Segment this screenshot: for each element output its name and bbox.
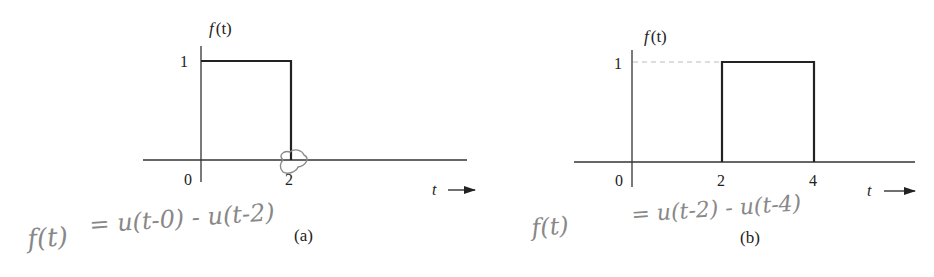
panel-a-handwritten-lhs: f(t) [24, 221, 68, 254]
panel-b-xtick-0: 0 [615, 172, 623, 189]
panel-b-pulse [722, 62, 814, 162]
panel-b-handwritten-eq: = u(t-2) - u(t-4) [631, 190, 802, 227]
panel-a: f(t) 1 0 2 t (a) f(t) = u(t-0) - u(t-2) [24, 19, 475, 254]
panel-a-xlabel: t [432, 181, 437, 198]
figure: f(t) 1 0 2 t (a) f(t) = u(t-0) - u(t-2) … [0, 0, 934, 277]
panel-a-handwritten-eq: = u(t-0) - u(t-2) [88, 198, 275, 239]
panel-b-xtick-2: 2 [717, 172, 725, 189]
panel-a-xtick-0: 0 [184, 171, 192, 188]
panel-b-handwritten-lhs: f(t) [528, 211, 569, 242]
panel-b-ytick-1: 1 [614, 55, 622, 72]
panel-a-handwritten-equation: f(t) = u(t-0) - u(t-2) [24, 198, 275, 254]
panel-a-caption: (a) [294, 226, 313, 245]
panel-b-xtick-4: 4 [809, 172, 817, 189]
panel-b: f(t) 1 0 2 4 t (b) f(t) = u(t-2) - u(t-4… [528, 27, 915, 247]
panel-b-xlabel: t [867, 182, 872, 199]
panel-b-caption: (b) [740, 228, 760, 247]
pencil-circle-mark [280, 150, 307, 173]
panel-b-ylabel: f(t) [644, 27, 667, 46]
panel-a-ylabel: f(t) [209, 19, 232, 38]
panel-a-ytick-1: 1 [180, 53, 188, 70]
panel-a-pulse [201, 61, 291, 160]
panel-b-handwritten-equation: f(t) = u(t-2) - u(t-4) [528, 190, 802, 242]
